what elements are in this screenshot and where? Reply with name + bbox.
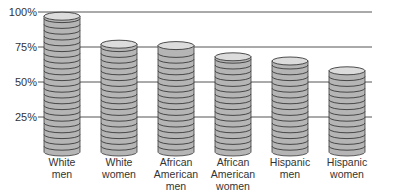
x-category-label: White [106,156,133,168]
coin-top [215,53,251,61]
y-axis-labels: 25%50%75%100% [9,6,37,123]
x-category-label: women [101,168,136,180]
y-tick-label: 100% [9,6,37,18]
coin-top [101,40,137,48]
x-category-label: Hispanic [270,156,310,168]
y-tick-label: 75% [15,41,37,53]
x-category-label: men [52,168,73,180]
coin-stack [101,40,137,156]
y-tick-label: 50% [15,76,37,88]
x-category-label: women [215,180,250,192]
coin-stack [215,53,251,156]
coin-top [272,57,308,65]
x-category-label: American [211,168,256,180]
x-axis-labels: WhitemenWhitewomenAfricanAmericanmenAfri… [49,156,368,192]
coin-top [329,67,365,75]
coin-stack [158,42,194,156]
coin-stack [272,57,308,156]
coin-top [158,42,194,50]
coin-stack [329,67,365,156]
x-category-label: American [154,168,199,180]
coin-stacks [44,12,365,156]
coin-stack [44,12,80,156]
x-category-label: White [49,156,76,168]
x-category-label: men [166,180,187,192]
gridlines [38,12,372,117]
x-category-label: African [217,156,250,168]
x-category-label: men [280,168,301,180]
x-category-label: Hispanic [327,156,367,168]
x-category-label: women [329,168,364,180]
coin-top [44,12,80,20]
x-category-label: African [160,156,193,168]
y-tick-label: 25% [15,111,37,123]
coin-stack-chart: 25%50%75%100% WhitemenWhitewomenAfricanA… [0,0,394,194]
